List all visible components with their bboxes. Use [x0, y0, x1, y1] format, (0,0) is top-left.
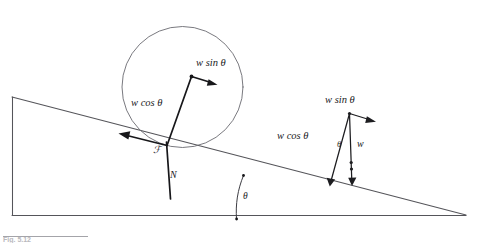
ball-force-vectors	[119, 75, 218, 199]
figure-caption-label: Fig. 5.12	[3, 236, 31, 243]
incline-surface	[12, 97, 466, 215]
incline-theta-label: θ	[243, 192, 248, 202]
block-w-cos-theta-arrowhead	[327, 178, 336, 187]
block-w-sin-theta-vector	[350, 114, 370, 120]
normal-force-label: N	[170, 170, 177, 180]
block-weight-tick-lower	[350, 167, 353, 170]
block-w-sin-theta-label: w sin θ	[325, 95, 355, 106]
block-force-triangle	[327, 112, 376, 187]
ball-outline	[122, 27, 243, 148]
physics-figure: w sin θ w cos θ ℱ N w sin θ w cos θ θ w …	[0, 0, 482, 243]
block-weight-vector	[350, 114, 352, 182]
ball-w-cos-theta-vector	[167, 77, 192, 146]
friction-label: ℱ	[153, 145, 161, 155]
inclined-plane-wedge	[12, 97, 466, 216]
ball-w-sin-theta-label: w sin θ	[196, 58, 226, 69]
block-w-sin-theta-arrowhead	[365, 116, 376, 123]
block-w-cos-theta-label: w cos θ	[277, 131, 308, 142]
ball-circle	[122, 27, 243, 148]
friction-vector	[127, 136, 167, 146]
block-apex-dot	[348, 112, 351, 115]
block-theta-label: θ	[337, 140, 341, 149]
block-weight-label: w	[357, 139, 364, 149]
friction-arrowhead	[119, 131, 131, 139]
incline-arc-bottom-dot	[235, 218, 238, 221]
block-weight-tick-upper	[350, 161, 353, 164]
incline-arc-top-dot	[242, 174, 245, 177]
ball-w-sin-theta-arrowhead	[207, 79, 218, 86]
diagram-canvas	[0, 0, 482, 243]
ball-w-cos-theta-label: w cos θ	[131, 98, 162, 109]
